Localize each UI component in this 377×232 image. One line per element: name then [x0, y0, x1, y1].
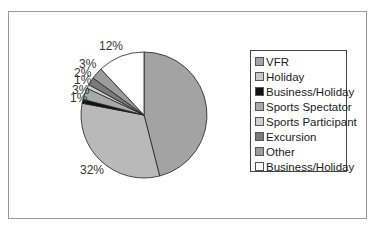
- pie-label-holiday: 32%: [80, 164, 104, 176]
- legend-item-holiday: Holiday: [255, 69, 346, 84]
- legend: VFR Holiday Business/Holiday Sports Spec…: [250, 50, 347, 172]
- legend-swatch-icon: [255, 147, 264, 156]
- legend-item-business-holiday-large: Business/Holiday: [255, 159, 346, 174]
- pie-label-business-holiday-large: 12%: [99, 40, 123, 52]
- legend-item-vfr: VFR: [255, 54, 346, 69]
- legend-item-business-holiday-small: Business/Holiday: [255, 84, 346, 99]
- legend-item-sports-spectator: Sports Spectator: [255, 99, 346, 114]
- legend-swatch-icon: [255, 162, 264, 171]
- legend-swatch-icon: [255, 132, 264, 141]
- legend-swatch-icon: [255, 87, 264, 96]
- legend-swatch-icon: [255, 117, 264, 126]
- legend-item-other: Other: [255, 144, 346, 159]
- legend-swatch-icon: [255, 72, 264, 81]
- pie-label-other: 3%: [79, 58, 96, 70]
- legend-item-sports-participant: Sports Participant: [255, 114, 346, 129]
- legend-swatch-icon: [255, 102, 264, 111]
- legend-item-excursion: Excursion: [255, 129, 346, 144]
- legend-swatch-icon: [255, 57, 264, 66]
